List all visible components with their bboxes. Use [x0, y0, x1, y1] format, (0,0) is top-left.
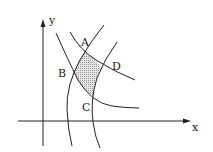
point-label-a: A [80, 36, 90, 49]
point-label-d: D [112, 60, 121, 73]
x-axis-arrow-icon [183, 119, 191, 124]
shaded-region-abcd [74, 51, 101, 96]
diagram-svg: y x A B C D [0, 0, 213, 152]
point-label-c: C [82, 101, 90, 114]
point-label-b: B [58, 67, 66, 80]
curve-d-c [92, 42, 117, 148]
diagram-canvas: y x A B C D [0, 0, 213, 152]
y-axis-arrow-icon [41, 19, 46, 27]
y-axis-label: y [48, 14, 56, 27]
x-axis-label: x [192, 121, 199, 134]
